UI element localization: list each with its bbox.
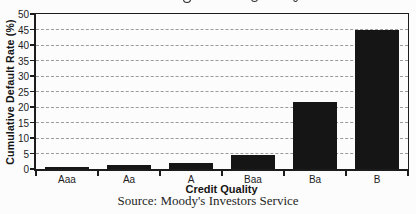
y-tick-label-45: 45 <box>2 25 29 36</box>
bar-ba <box>293 102 337 169</box>
y-tick-label-30: 30 <box>2 71 29 82</box>
gridline-15 <box>36 122 408 123</box>
gridline-20 <box>36 107 408 108</box>
gridline-5 <box>36 153 408 154</box>
source-caption: Source: Moody's Investors Service <box>0 193 416 209</box>
bar-aa <box>107 165 151 169</box>
y-axis-tick <box>30 13 34 15</box>
y-tick-label-20: 20 <box>2 102 29 113</box>
gridline-25 <box>36 91 408 92</box>
y-axis-tick <box>30 122 34 124</box>
bar-b <box>355 30 399 170</box>
y-tick-label-35: 35 <box>2 56 29 67</box>
title-descender-fragment <box>183 0 191 3</box>
gridline-40 <box>36 45 408 46</box>
y-axis-tick <box>30 29 34 31</box>
y-tick-label-25: 25 <box>2 87 29 98</box>
bar-baa <box>231 155 275 169</box>
bar-a <box>169 163 213 170</box>
y-axis-tick <box>30 75 34 77</box>
title-descender-fragment <box>293 0 298 2</box>
bar-aaa <box>45 167 89 169</box>
y-axis-tick <box>30 60 34 62</box>
y-axis-tick <box>30 44 34 46</box>
y-axis-tick <box>30 153 34 155</box>
y-axis-tick <box>30 137 34 139</box>
y-axis-tick <box>30 91 34 93</box>
y-axis-tick <box>30 168 34 170</box>
gridline-45 <box>36 29 408 30</box>
title-descender-fragment <box>251 0 258 2</box>
gridline-10 <box>36 138 408 139</box>
y-axis-tick <box>30 106 34 108</box>
y-tick-label-5: 5 <box>2 149 29 160</box>
y-tick-label-10: 10 <box>2 133 29 144</box>
y-tick-label-0: 0 <box>2 164 29 175</box>
clipped-chart-title <box>0 0 416 4</box>
scanned-bar-chart-page: Cumulative Default Rate (%) 051015202530… <box>0 0 416 214</box>
y-tick-label-15: 15 <box>2 118 29 129</box>
plot-area <box>34 13 409 171</box>
y-tick-label-50: 50 <box>2 9 29 20</box>
gridline-35 <box>36 60 408 61</box>
gridline-30 <box>36 76 408 77</box>
y-tick-label-40: 40 <box>2 40 29 51</box>
